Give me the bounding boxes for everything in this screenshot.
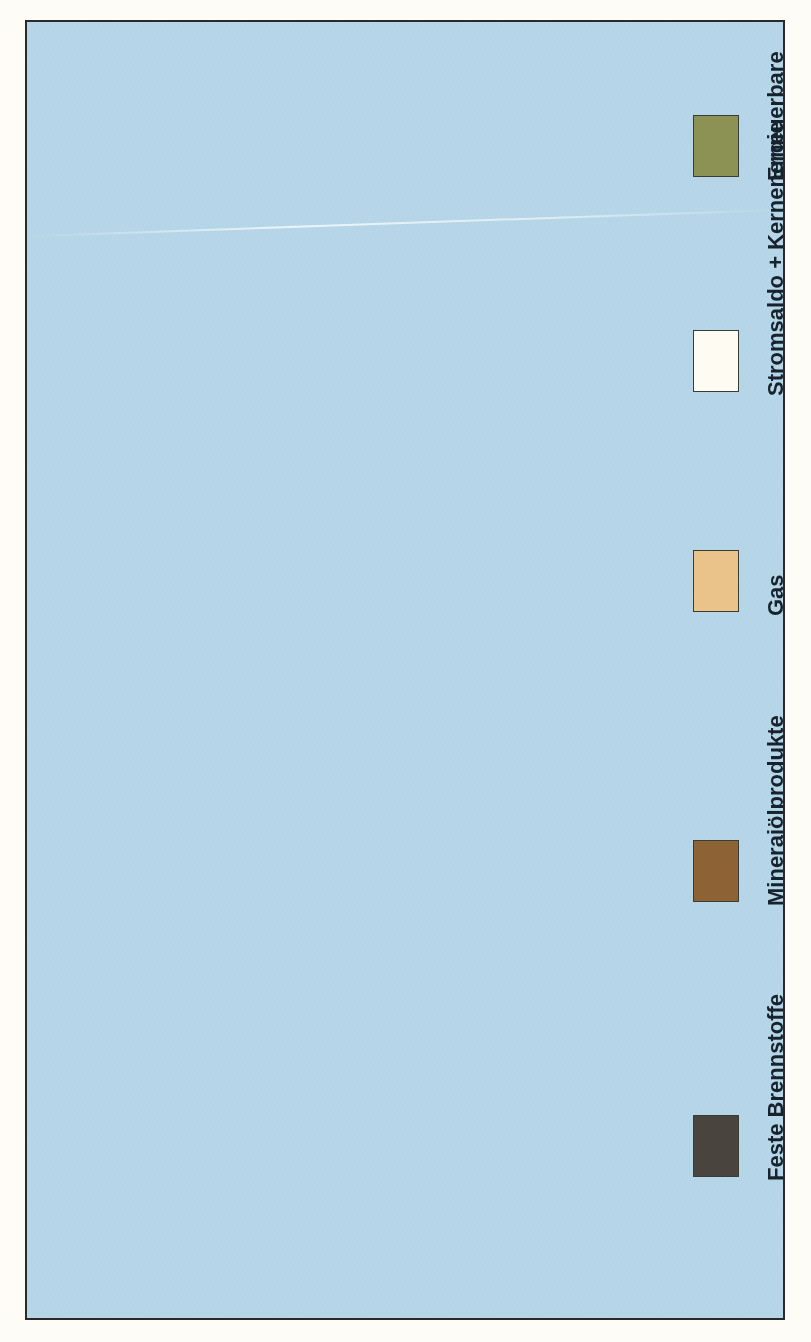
legend: Feste BrennstoffeMineraiölprodukteGasStr… xyxy=(687,80,782,1240)
legend-label-gas: Gas xyxy=(763,574,785,616)
legend-swatch-oel xyxy=(693,840,739,902)
legend-label-erneu: Erneuerbare xyxy=(763,51,785,181)
legend-swatch-gas xyxy=(693,550,739,612)
figure-panel: 15 00010 0005 0000PJR4R3REFR4R3REFREFJah… xyxy=(25,20,785,1320)
legend-swatch-strom xyxy=(693,330,739,392)
legend-swatch-feste xyxy=(693,1115,739,1177)
legend-label-oel: Mineraiölprodukte xyxy=(763,715,785,906)
paper-grain xyxy=(27,22,783,1318)
legend-label-feste: Feste Brennstoffe xyxy=(763,994,785,1181)
scan-artifact xyxy=(27,209,783,237)
legend-swatch-erneu xyxy=(693,115,739,177)
